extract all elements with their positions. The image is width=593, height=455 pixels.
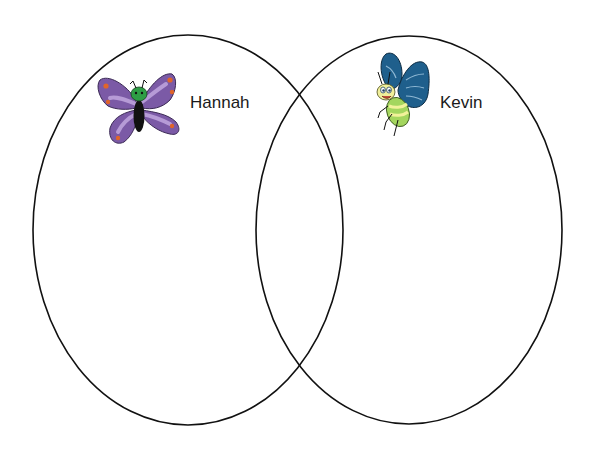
hannah-circle <box>33 35 343 425</box>
hannah-label: Hannah <box>190 93 250 113</box>
blue-butterfly-icon <box>372 50 432 138</box>
venn-diagram <box>0 0 593 455</box>
kevin-label: Kevin <box>440 93 483 113</box>
purple-butterfly-icon <box>96 70 182 148</box>
